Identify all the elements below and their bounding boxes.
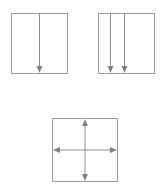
down-arrow-head-icon bbox=[82, 174, 88, 181]
figure-3-svg bbox=[52, 118, 118, 182]
down-arrow-mid-head-icon bbox=[122, 66, 128, 73]
down-arrow-left-head-icon bbox=[108, 66, 114, 73]
down-arrow-center-head-icon bbox=[37, 66, 43, 73]
figure-2-svg bbox=[98, 13, 155, 74]
left-arrow-head-icon bbox=[53, 147, 60, 153]
diagram-canvas bbox=[0, 0, 166, 187]
figure-1-square-one-down-arrow bbox=[11, 13, 68, 74]
up-arrow-head-icon bbox=[82, 119, 88, 126]
figure-2-square-two-down-arrows bbox=[98, 13, 155, 74]
figure-3-square-four-outward-arrows bbox=[52, 118, 118, 182]
right-arrow-head-icon bbox=[110, 147, 117, 153]
square-outline bbox=[99, 14, 155, 74]
figure-1-svg bbox=[11, 13, 68, 74]
